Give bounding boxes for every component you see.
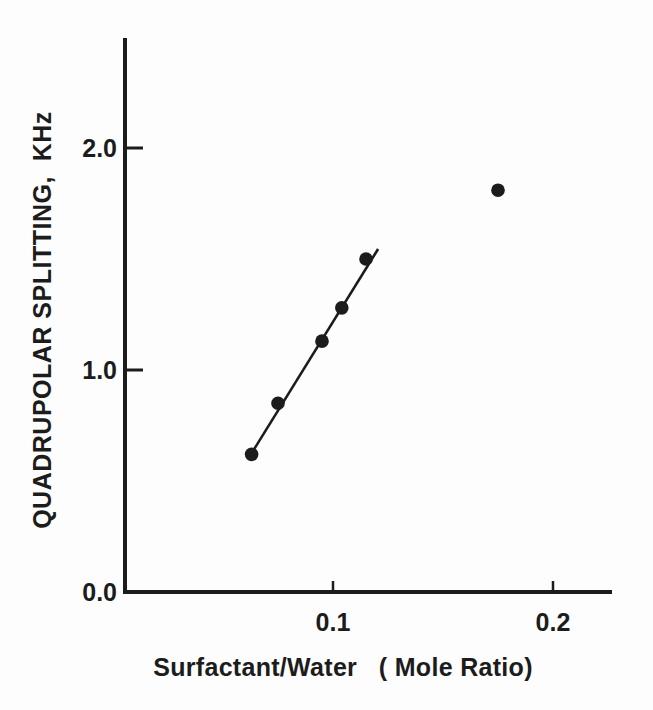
data-point-outlier-point [491,183,505,197]
fit-line [252,249,379,453]
y-tick-label: 1.0 [82,356,117,384]
plot-canvas: 0.01.02.00.10.2 [0,0,653,710]
x-tick-label: 0.2 [536,608,571,636]
y-tick-label: 2.0 [82,134,117,162]
x-tick-label: 0.1 [316,608,351,636]
data-point-linear-region-points [245,448,259,462]
data-point-linear-region-points [335,301,349,315]
data-point-linear-region-points [359,252,373,266]
data-point-linear-region-points [271,397,285,411]
y-tick-label: 0.0 [82,578,117,606]
data-point-linear-region-points [315,334,329,348]
x-axis-label: Surfactant/Water ( Mole Ratio) [153,653,533,682]
scatter-plot-figure: QUADRUPOLAR SPLITTING, KHz 0.01.02.00.10… [0,0,653,710]
